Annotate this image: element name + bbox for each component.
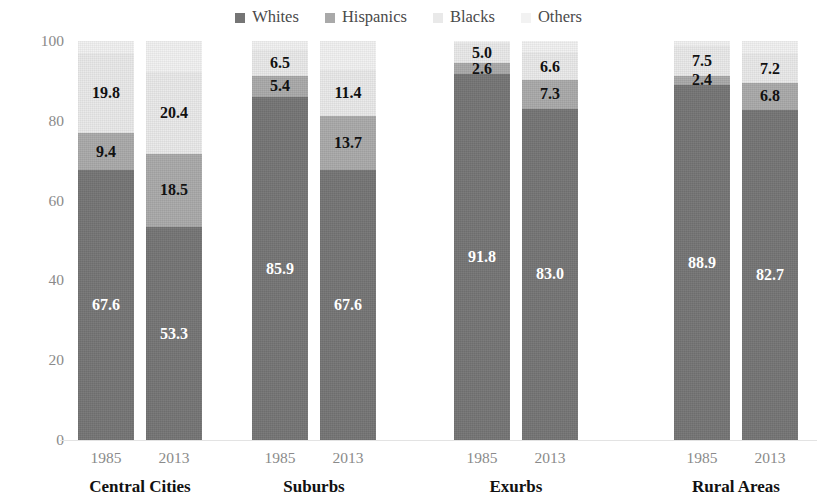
bar-segment-whites: 91.8 [454, 74, 510, 440]
bar-segment-hispanics: 2.6 [454, 63, 510, 73]
x-axis-baseline [60, 440, 817, 441]
bar-segment-value-label: 13.7 [334, 135, 362, 151]
bar-segment-whites: 53.3 [146, 227, 202, 440]
legend-item-others[interactable]: Others [521, 7, 582, 27]
bar-segment-value-label: 88.9 [688, 255, 716, 271]
y-axis-tick: 100 [18, 33, 64, 49]
legend-swatch-others-icon [521, 13, 531, 23]
bar-segment-whites: 88.9 [674, 85, 730, 440]
bar-central-cities-1985[interactable]: 19.89.467.6 [78, 41, 134, 440]
bar-suburbs-1985[interactable]: 6.55.485.9 [252, 41, 308, 440]
bar-segment-others [742, 41, 798, 54]
bar-segment-hispanics: 7.3 [522, 80, 578, 109]
bar-segment-value-label: 7.3 [540, 86, 560, 102]
bar-segment-value-label: 67.6 [92, 297, 120, 313]
bar-segment-blacks: 6.6 [522, 53, 578, 79]
x-axis-year-label: 2013 [742, 449, 798, 467]
bar-segment-hispanics: 5.4 [252, 76, 308, 98]
x-axis-year-label: 1985 [78, 449, 134, 467]
y-axis-tick: 60 [18, 193, 64, 209]
bar-segment-value-label: 6.5 [270, 55, 290, 71]
x-axis-group-label-exurbs: Exurbs [416, 477, 616, 497]
bar-segment-value-label: 20.4 [160, 105, 188, 121]
bar-suburbs-2013[interactable]: 11.413.767.6 [320, 41, 376, 440]
chart-legend: WhitesHispanicsBlacksOthers [0, 4, 817, 30]
x-axis-group-label-rural-areas: Rural Areas [636, 477, 817, 497]
bar-segment-value-label: 7.5 [692, 53, 712, 69]
bar-segment-value-label: 6.8 [760, 88, 780, 104]
x-axis-year-label: 1985 [454, 449, 510, 467]
bar-segment-others [522, 41, 578, 53]
bar-segment-blacks: 19.8 [78, 54, 134, 133]
bar-segment-value-label: 82.7 [756, 267, 784, 283]
legend-label: Hispanics [342, 7, 407, 27]
x-axis-year-label: 2013 [522, 449, 578, 467]
stacked-bar-chart: WhitesHispanicsBlacksOthers Percent of H… [0, 0, 817, 503]
bar-segment-value-label: 53.3 [160, 326, 188, 342]
bar-segment-blacks: 6.5 [252, 50, 308, 76]
bar-segment-whites: 85.9 [252, 97, 308, 440]
bar-segment-others [146, 41, 202, 72]
x-axis-year-label: 2013 [146, 449, 202, 467]
x-axis-group-label-central-cities: Central Cities [40, 477, 240, 497]
y-axis-tick: 20 [18, 352, 64, 368]
bar-segment-hispanics: 9.4 [78, 133, 134, 171]
legend-label: Whites [252, 7, 299, 27]
x-axis-year-label: 1985 [674, 449, 730, 467]
bar-segment-value-label: 7.2 [760, 61, 780, 77]
bar-segment-value-label: 18.5 [160, 182, 188, 198]
bar-exurbs-2013[interactable]: 6.67.383.0 [522, 41, 578, 440]
bar-central-cities-2013[interactable]: 20.418.553.3 [146, 41, 202, 440]
bar-segment-blacks: 7.2 [742, 54, 798, 83]
y-axis-ticks: 100806040200 [0, 41, 64, 440]
bar-segment-value-label: 67.6 [334, 297, 362, 313]
bar-segment-others [320, 41, 376, 70]
bar-rural-areas-2013[interactable]: 7.26.882.7 [742, 41, 798, 440]
y-axis-tick: 80 [18, 113, 64, 129]
bar-segment-blacks: 11.4 [320, 70, 376, 115]
bar-segment-others [78, 41, 134, 54]
bar-segment-value-label: 85.9 [266, 261, 294, 277]
legend-swatch-blacks-icon [433, 13, 443, 23]
bar-segment-hispanics: 6.8 [742, 83, 798, 110]
legend-swatch-whites-icon [235, 13, 245, 23]
bar-segment-whites: 67.6 [320, 170, 376, 440]
bar-segment-hispanics: 13.7 [320, 116, 376, 171]
bar-segment-value-label: 19.8 [92, 85, 120, 101]
bar-segment-whites: 82.7 [742, 110, 798, 440]
legend-item-hispanics[interactable]: Hispanics [325, 7, 407, 27]
bar-segment-value-label: 2.6 [472, 61, 492, 77]
x-axis-group-label-suburbs: Suburbs [214, 477, 414, 497]
bar-segment-hispanics: 2.4 [674, 76, 730, 86]
bar-segment-value-label: 2.4 [692, 72, 712, 88]
y-axis-tick: 40 [18, 273, 64, 289]
x-axis-year-label: 2013 [320, 449, 376, 467]
bar-segment-value-label: 83.0 [536, 266, 564, 282]
bar-segment-value-label: 11.4 [334, 85, 361, 101]
bar-exurbs-1985[interactable]: 5.02.691.8 [454, 41, 510, 440]
bar-segment-value-label: 5.0 [472, 45, 492, 61]
plot-area: 19.89.467.620.418.553.36.55.485.911.413.… [72, 41, 817, 440]
legend-swatch-hispanics-icon [325, 13, 335, 23]
legend-label: Others [538, 7, 582, 27]
bar-segment-blacks: 20.4 [146, 72, 202, 153]
legend-item-whites[interactable]: Whites [235, 7, 299, 27]
y-axis-tick: 0 [18, 432, 64, 448]
bar-segment-value-label: 6.6 [540, 59, 560, 75]
bar-segment-whites: 83.0 [522, 109, 578, 440]
bar-segment-value-label: 91.8 [468, 249, 496, 265]
bar-segment-hispanics: 18.5 [146, 154, 202, 228]
x-axis-year-label: 1985 [252, 449, 308, 467]
bar-rural-areas-1985[interactable]: 7.52.488.9 [674, 41, 730, 440]
legend-label: Blacks [450, 7, 495, 27]
bar-segment-value-label: 5.4 [270, 78, 290, 94]
legend-item-blacks[interactable]: Blacks [433, 7, 495, 27]
bar-segment-others [252, 41, 308, 50]
bar-segment-value-label: 9.4 [96, 144, 116, 160]
bar-segment-whites: 67.6 [78, 170, 134, 440]
